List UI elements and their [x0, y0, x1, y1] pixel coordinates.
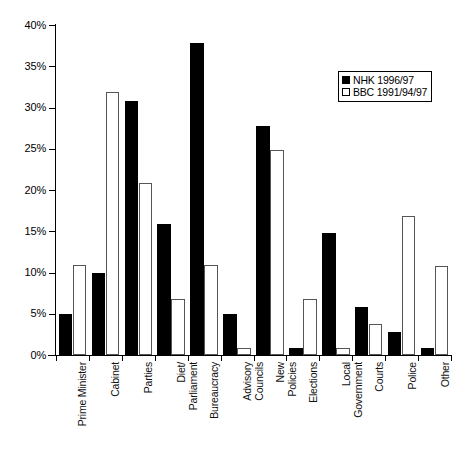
x-axis-tick: [352, 356, 353, 361]
x-axis-category-label: Advisory Councils: [242, 362, 265, 450]
y-axis-tick: [49, 190, 55, 191]
bar: [157, 224, 171, 355]
x-axis-category-label: Other: [440, 362, 452, 450]
y-axis-tick-label: 15%: [25, 226, 46, 237]
bar: [270, 150, 284, 355]
x-axis-tick: [451, 356, 452, 361]
bar: [59, 314, 73, 355]
x-axis-category-label: Bureaucracy: [209, 362, 221, 450]
x-axis-tick: [319, 356, 320, 361]
x-axis-category-label: Diet/ Parliament: [176, 362, 199, 450]
x-axis-tick: [56, 356, 57, 361]
y-axis-tick: [49, 25, 55, 26]
y-axis-tick: [49, 273, 55, 274]
y-axis-tick-label: 35%: [25, 61, 46, 72]
x-axis-tick: [286, 356, 287, 361]
x-axis-category-label: Local Government: [341, 362, 364, 450]
bar: [421, 348, 435, 355]
legend-label-bbc: BBC 1991/94/97: [353, 86, 427, 98]
filled-square-icon: [342, 76, 350, 84]
x-axis-category-label: New Policies: [275, 362, 298, 450]
y-axis-tick: [49, 66, 55, 67]
y-axis-tick: [49, 149, 55, 150]
x-axis-category-label: Cabinet: [110, 362, 122, 450]
bar: [355, 307, 369, 355]
bar: [190, 43, 204, 355]
y-axis-tick-label: 40%: [25, 20, 46, 31]
bar: [223, 314, 237, 355]
x-axis-tick: [254, 356, 255, 361]
x-axis-category-label: Police: [407, 362, 419, 450]
bar: [336, 348, 350, 355]
legend-label-nhk: NHK 1996/97: [353, 74, 414, 86]
bar: [303, 299, 317, 355]
x-axis-category-label: Parties: [143, 362, 155, 450]
y-axis-tick-label: 30%: [25, 102, 46, 113]
hollow-square-icon: [342, 88, 350, 96]
y-axis-tick-label: 25%: [25, 143, 46, 154]
y-axis-tick: [49, 108, 55, 109]
bar: [237, 348, 251, 355]
x-axis-tick: [188, 356, 189, 361]
legend-item-bbc: BBC 1991/94/97: [342, 86, 427, 98]
bar: [435, 266, 449, 355]
x-axis-line: [48, 355, 452, 356]
x-axis-tick: [221, 356, 222, 361]
legend-item-nhk: NHK 1996/97: [342, 74, 427, 86]
bar: [388, 332, 402, 355]
bar: [125, 101, 139, 355]
x-axis-tick: [89, 356, 90, 361]
bar: [73, 265, 87, 355]
bar: [322, 233, 336, 355]
x-axis-tick: [155, 356, 156, 361]
bar: [256, 126, 270, 355]
y-axis-tick-label: 10%: [25, 267, 46, 278]
x-axis-tick: [418, 356, 419, 361]
x-axis-tick: [122, 356, 123, 361]
y-axis-tick: [49, 314, 55, 315]
y-axis-tick-label: 0%: [31, 350, 47, 361]
bar: [92, 273, 106, 355]
y-axis-tick-label: 20%: [25, 185, 46, 196]
bar: [204, 265, 218, 355]
bar: [289, 348, 303, 355]
y-axis-tick: [49, 231, 55, 232]
x-axis-category-label: Elections: [308, 362, 320, 450]
y-axis-tick-label: 5%: [31, 308, 47, 319]
bar: [402, 216, 416, 355]
bar: [139, 183, 153, 355]
bar: [369, 324, 383, 355]
bar: [171, 299, 185, 355]
x-axis-tick: [385, 356, 386, 361]
x-axis-category-label: Prime Minister: [77, 362, 89, 450]
x-axis-category-label: Courts: [374, 362, 386, 450]
bar: [106, 92, 120, 355]
y-axis-tick: [49, 355, 55, 356]
bar-chart: 0%5%10%15%20%25%30%35%40% Prime Minister…: [0, 0, 455, 450]
legend: NHK 1996/97 BBC 1991/94/97: [338, 71, 432, 102]
